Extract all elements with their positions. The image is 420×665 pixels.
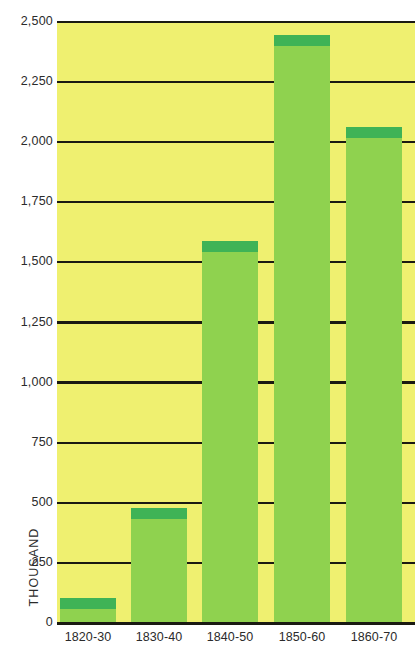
gridline-segment	[330, 381, 346, 383]
gridline-segment	[187, 141, 202, 143]
gridline-segment	[60, 141, 116, 143]
gridline-segment	[131, 261, 187, 263]
gridline-segment	[330, 201, 346, 203]
x-tick-label: 1840-50	[190, 630, 270, 644]
gridline-segment	[60, 81, 116, 83]
gridline-segment	[116, 562, 131, 564]
gridline-segment	[60, 562, 116, 564]
gridline-segment	[258, 21, 274, 23]
bar-1830-40	[131, 508, 187, 622]
bar-1850-60	[274, 35, 330, 622]
gridline-segment	[402, 562, 415, 564]
gridline-segment	[402, 502, 415, 504]
y-tick-label: 1,000	[1, 376, 53, 389]
gridline-segment	[330, 141, 346, 143]
gridline-segment	[346, 21, 402, 23]
y-tick-label: 500	[1, 496, 53, 509]
gridline-segment	[330, 261, 346, 263]
gridline-segment	[202, 81, 258, 83]
gridline-segment	[60, 321, 116, 323]
gridline-segment	[402, 442, 415, 444]
gridline-segment	[131, 502, 187, 504]
y-tick-label: 750	[1, 436, 53, 449]
gridline-segment	[131, 201, 187, 203]
gridline-segment	[258, 321, 274, 323]
gridline-segment	[258, 562, 274, 564]
gridline-segment	[330, 321, 346, 323]
bar-cap	[346, 127, 402, 138]
x-tick-label: 1820-30	[48, 630, 128, 644]
gridline-segment	[57, 261, 60, 263]
gridline-segment	[330, 81, 346, 83]
y-axis-title: THOUSAND	[27, 512, 41, 622]
gridline-segment	[258, 442, 274, 444]
gridline-segment	[116, 141, 131, 143]
gridline-segment	[187, 442, 202, 444]
gridline-segment	[187, 21, 202, 23]
gridline-segment	[60, 502, 116, 504]
bar-1860-70	[346, 127, 402, 622]
gridline-segment	[274, 21, 330, 23]
gridline-segment	[202, 141, 258, 143]
bar-cap	[202, 241, 258, 252]
gridline-segment	[131, 381, 187, 383]
y-tick-label: 2,000	[1, 135, 53, 148]
bar-1820-30	[60, 598, 116, 622]
gridline-segment	[116, 201, 131, 203]
gridline-segment	[187, 381, 202, 383]
gridline-segment	[187, 261, 202, 263]
gridline-0	[57, 622, 415, 625]
gridline-segment	[116, 321, 131, 323]
plot-area	[57, 21, 415, 622]
gridline-segment	[60, 201, 116, 203]
gridline-segment	[258, 381, 274, 383]
gridline-segment	[60, 21, 116, 23]
gridline-segment	[57, 21, 60, 23]
gridline-segment	[116, 442, 131, 444]
gridline-segment	[187, 201, 202, 203]
gridline-segment	[330, 21, 346, 23]
gridline-segment	[402, 321, 415, 323]
gridline-segment	[57, 201, 60, 203]
gridline-segment	[57, 381, 60, 383]
x-tick-label: 1830-40	[119, 630, 199, 644]
gridline-segment	[131, 81, 187, 83]
gridline-segment	[57, 442, 60, 444]
x-tick-label: 1860-70	[334, 630, 414, 644]
gridline-segment	[402, 81, 415, 83]
gridline-segment	[187, 502, 202, 504]
gridline-segment	[258, 81, 274, 83]
gridline-segment	[402, 21, 415, 23]
gridline-segment	[187, 321, 202, 323]
bar-chart: 02505007501,0001,2501,5001,7502,0002,250…	[0, 0, 420, 665]
gridline-segment	[60, 381, 116, 383]
gridline-2500	[57, 21, 415, 23]
bar-1840-50	[202, 241, 258, 622]
y-tick-label: 1,250	[1, 316, 53, 329]
gridline-segment	[202, 21, 258, 23]
gridline-segment	[258, 141, 274, 143]
gridline-segment	[131, 21, 187, 23]
gridline-segment	[57, 502, 60, 504]
gridline-segment	[131, 321, 187, 323]
y-tick-label: 1,750	[1, 195, 53, 208]
gridline-segment	[330, 502, 346, 504]
gridline-segment	[116, 21, 131, 23]
gridline-segment	[60, 442, 116, 444]
gridline-segment	[202, 201, 258, 203]
gridline-segment	[116, 502, 131, 504]
y-tick-label: 1,500	[1, 255, 53, 268]
gridline-segment	[402, 201, 415, 203]
gridline-segment	[60, 261, 116, 263]
gridline-segment	[187, 562, 202, 564]
gridline-segment	[402, 261, 415, 263]
gridline-segment	[57, 321, 60, 323]
gridline-segment	[258, 261, 274, 263]
gridline-segment	[116, 261, 131, 263]
x-tick-label: 1850-60	[262, 630, 342, 644]
gridline-segment	[116, 81, 131, 83]
gridline-2250	[57, 81, 415, 83]
gridline-segment	[330, 562, 346, 564]
gridline-segment	[402, 141, 415, 143]
gridline-segment	[258, 502, 274, 504]
